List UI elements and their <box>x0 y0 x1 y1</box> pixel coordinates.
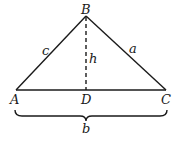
altitude-label-h: h <box>89 51 97 66</box>
vertex-label-b: B <box>80 2 91 17</box>
base-label-b: b <box>82 121 90 136</box>
side-label-a: a <box>129 41 137 56</box>
vertex-label-d: D <box>80 92 92 107</box>
brace-b <box>15 110 167 121</box>
vertex-label-a: A <box>9 92 19 107</box>
vertex-label-c: C <box>161 92 171 107</box>
side-a <box>86 16 166 90</box>
side-label-c: c <box>42 43 50 58</box>
side-c <box>16 16 86 90</box>
triangle-diagram: B A D C c a h b <box>0 0 181 143</box>
